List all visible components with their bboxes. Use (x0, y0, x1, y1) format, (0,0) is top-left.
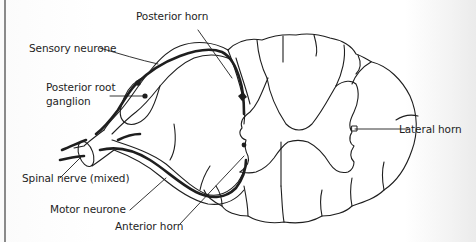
leader-lines (60, 30, 408, 224)
grey-matter-outline (240, 78, 358, 186)
label-posterior-root-ganglion-line1: Posterior root (46, 81, 115, 93)
label-posterior-horn: Posterior horn (136, 10, 208, 22)
label-lateral-horn: Lateral horn (399, 123, 462, 135)
spinal-cord-outline (204, 34, 418, 223)
label-posterior-root-ganglion-line2: ganglion (46, 95, 91, 107)
label-motor-neurone: Motor neurone (50, 203, 126, 215)
diagram-page: Posterior horn Sensory neurone Posterior… (0, 0, 476, 242)
label-spinal-nerve: Spinal nerve (mixed) (22, 172, 129, 184)
neurone-cell-bodies (135, 80, 247, 147)
label-sensory-neurone: Sensory neurone (29, 42, 116, 54)
label-anterior-horn: Anterior horn (115, 220, 183, 232)
